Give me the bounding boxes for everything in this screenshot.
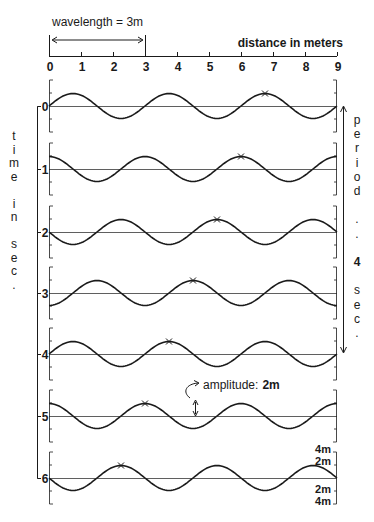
period-letter: 4 xyxy=(354,255,361,269)
tick-label-6: 6 xyxy=(239,60,246,74)
scale-label-2m-bottom: 2m xyxy=(315,483,331,495)
period-letter: e xyxy=(354,127,361,141)
wave-curve xyxy=(49,342,337,367)
time-letter: t xyxy=(12,129,16,143)
right-scale-bracket xyxy=(333,267,337,319)
time-bracket xyxy=(38,107,42,479)
wavelength-label: wavelength = 3m xyxy=(51,15,143,29)
time-label-5: 5 xyxy=(42,410,49,424)
time-label-6: 6 xyxy=(42,472,49,486)
period-letter: p xyxy=(354,113,361,127)
wave-curve xyxy=(49,281,337,306)
distance-ticks: 0123456789 xyxy=(47,52,342,74)
period-letter: . xyxy=(355,326,358,340)
tick-label-3: 3 xyxy=(143,60,150,74)
tick-label-9: 9 xyxy=(335,60,342,74)
tick-label-8: 8 xyxy=(303,60,310,74)
wave-rows: 0123456 xyxy=(38,80,338,504)
period-letter: r xyxy=(355,141,359,155)
time-letter: e xyxy=(11,170,18,184)
wave-curve xyxy=(49,220,337,245)
time-letter: e xyxy=(11,251,18,265)
left-scale-bracket xyxy=(50,267,54,319)
amplitude-value: 2m xyxy=(262,378,279,392)
time-letter: n xyxy=(11,210,18,224)
time-letter: . xyxy=(12,278,15,292)
wave-row-t1: 1 xyxy=(38,143,338,195)
tick-label-0: 0 xyxy=(47,60,54,74)
amplitude-annotation xyxy=(186,381,199,417)
transverse-wave-diagram: wavelength = 3m distance in meters 01234… xyxy=(0,0,374,522)
wave-row-t6: 6 xyxy=(38,452,338,504)
time-label-0: 0 xyxy=(42,100,49,114)
period-letter: . xyxy=(355,212,358,226)
tick-label-1: 1 xyxy=(79,60,86,74)
wavelength-indicator xyxy=(50,35,146,56)
svg-text:amplitude:2m: amplitude:2m xyxy=(203,378,280,392)
period-letter: d xyxy=(354,184,361,198)
period-letter: s xyxy=(354,283,360,297)
tick-label-2: 2 xyxy=(111,60,118,74)
time-label-1: 1 xyxy=(42,163,49,177)
time-axis-label: timeinsec. xyxy=(9,129,19,292)
wave-row-t0: 0 xyxy=(38,80,338,132)
time-letter: s xyxy=(11,237,17,251)
tick-label-5: 5 xyxy=(207,60,214,74)
axis-title: distance in meters xyxy=(238,36,344,50)
left-scale-bracket xyxy=(50,143,54,195)
amplitude-label: amplitude: xyxy=(203,378,258,392)
wave-row-t3: 3 xyxy=(38,267,338,319)
period-arrow xyxy=(341,106,347,353)
wave-curve xyxy=(49,157,337,182)
time-label-4: 4 xyxy=(42,348,49,362)
wave-curve xyxy=(49,466,337,491)
period-letter: e xyxy=(354,298,361,312)
time-letter: c xyxy=(11,264,17,278)
time-letter: i xyxy=(13,197,16,211)
time-letter: i xyxy=(13,143,16,157)
scale-label-4m-bottom: 4m xyxy=(315,495,331,507)
amplitude-scale: 4m 2m 2m 4m xyxy=(315,443,331,507)
scale-label-4m-top: 4m xyxy=(315,443,331,455)
right-scale-bracket xyxy=(333,390,337,442)
time-label-3: 3 xyxy=(42,287,49,301)
wave-row-t4: 4 xyxy=(38,328,338,380)
period-letter: c xyxy=(354,312,360,326)
scale-label-2m-top: 2m xyxy=(315,455,331,467)
period-letter: . xyxy=(355,227,358,241)
wave-curve xyxy=(49,404,337,429)
wave-row-t2: 2 xyxy=(38,206,338,258)
time-letter: m xyxy=(9,156,19,170)
wave-row-t5: 5 xyxy=(38,390,338,442)
right-scale-bracket xyxy=(333,143,337,195)
tick-label-4: 4 xyxy=(175,60,182,74)
left-scale-bracket xyxy=(50,390,54,442)
time-label-2: 2 xyxy=(42,226,49,240)
period-letter: i xyxy=(356,156,359,170)
period-letter: o xyxy=(354,170,361,184)
period-label: period..4sec. xyxy=(354,113,361,340)
wave-curve xyxy=(49,94,337,119)
tick-label-7: 7 xyxy=(271,60,278,74)
